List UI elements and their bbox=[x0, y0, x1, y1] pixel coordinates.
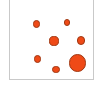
scatter-point[interactable] bbox=[34, 55, 42, 63]
plot-panel bbox=[9, 0, 94, 80]
scatter-point[interactable] bbox=[69, 54, 86, 71]
scatter-point[interactable] bbox=[52, 66, 59, 73]
scatter-plot bbox=[0, 0, 103, 95]
scatter-point[interactable] bbox=[33, 20, 40, 27]
scatter-point[interactable] bbox=[77, 36, 86, 45]
scatter-point[interactable] bbox=[49, 36, 58, 45]
scatter-point[interactable] bbox=[64, 19, 70, 25]
